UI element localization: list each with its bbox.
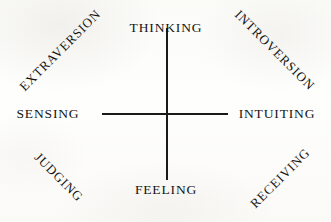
label-sensing: SENSING	[17, 107, 80, 121]
label-receiving: RECEIVING	[248, 146, 312, 210]
label-feeling: FEELING	[135, 183, 197, 197]
jungian-cross-diagram: THINKING FEELING SENSING INTUITING EXTRA…	[0, 0, 331, 222]
label-extraversion: EXTRAVERSION	[17, 7, 103, 93]
horizontal-axis-line	[102, 113, 228, 115]
label-thinking: THINKING	[130, 21, 203, 35]
label-introversion: INTROVERSION	[233, 8, 318, 93]
vertical-axis-line	[166, 28, 168, 180]
label-judging: JUDGING	[32, 150, 85, 203]
label-intuiting: INTUITING	[239, 107, 316, 121]
